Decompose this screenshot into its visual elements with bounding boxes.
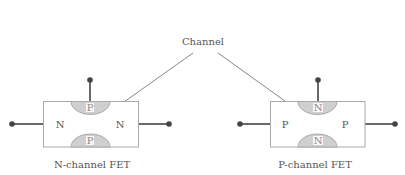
top-gate-label: N: [314, 102, 323, 113]
top-gate-label: P: [87, 102, 94, 113]
fet-diagram: Channel P P N N N-channel FET: [0, 0, 405, 175]
channel-label: Channel: [182, 36, 224, 47]
left-region-label: N: [56, 119, 65, 130]
source-terminal-dot: [9, 121, 15, 127]
gate-terminal-dot: [315, 77, 321, 83]
source-terminal-dot: [237, 121, 243, 127]
bottom-gate-label: N: [314, 135, 323, 146]
drain-terminal-dot: [166, 121, 172, 127]
gate-terminal-dot: [87, 77, 93, 83]
n-channel-fet: P P N N N-channel FET: [9, 77, 172, 170]
p-channel-fet: N N P P P-channel FET: [237, 77, 398, 170]
drain-terminal-dot: [392, 121, 398, 127]
right-region-label: P: [342, 119, 349, 130]
n-channel-caption: N-channel FET: [54, 159, 131, 170]
left-region-label: P: [282, 119, 289, 130]
bottom-gate-label: P: [87, 135, 94, 146]
p-channel-caption: P-channel FET: [278, 159, 352, 170]
right-region-label: N: [116, 119, 125, 130]
